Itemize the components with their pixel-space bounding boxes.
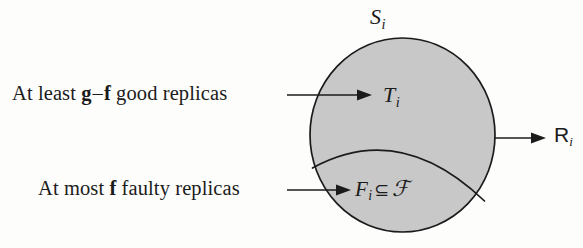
- label-good-subset-subscript: i: [395, 94, 400, 110]
- arrow-quorum: [495, 133, 546, 144]
- label-quorum-symbol: R: [554, 123, 569, 146]
- label-good-subset: Ti: [383, 84, 400, 109]
- figure-canvas: At least g–f good replicas At most f fau…: [0, 0, 583, 248]
- diagram-graphics: [0, 0, 583, 248]
- label-outer-set-symbol: S: [370, 4, 381, 29]
- caption-faulty-suffix: faulty replicas: [116, 177, 239, 199]
- label-outer-set-subscript: i: [381, 16, 386, 32]
- caption-faulty-replicas: At most f faulty replicas: [38, 178, 240, 199]
- label-faulty-subset: Fi⊆ℱ: [355, 178, 409, 203]
- label-faulty-subset-symbol: F: [355, 177, 368, 201]
- caption-good-suffix: good replicas: [111, 82, 227, 104]
- label-quorum: Ri: [554, 124, 573, 148]
- label-quorum-subscript: i: [569, 134, 573, 149]
- caption-good-bold-g: g: [81, 82, 91, 104]
- label-fault-universe: ℱ: [392, 176, 409, 201]
- caption-good-dash: –: [92, 82, 104, 104]
- label-outer-set: Si: [370, 6, 386, 31]
- caption-good-bold-f: f: [104, 82, 111, 104]
- subset-operator-icon: ⊆: [372, 179, 392, 200]
- caption-faulty-prefix: At most: [38, 177, 109, 199]
- caption-good-replicas: At least g–f good replicas: [12, 83, 227, 104]
- caption-good-prefix: At least: [12, 82, 81, 104]
- label-good-subset-symbol: T: [383, 82, 395, 107]
